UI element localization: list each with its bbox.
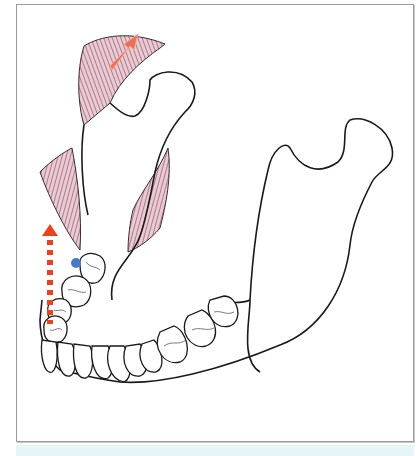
mandible-diagram bbox=[0, 0, 420, 456]
blue-marker-dot bbox=[71, 258, 81, 268]
mandible-outline bbox=[40, 72, 393, 382]
teeth-row bbox=[41, 253, 237, 382]
